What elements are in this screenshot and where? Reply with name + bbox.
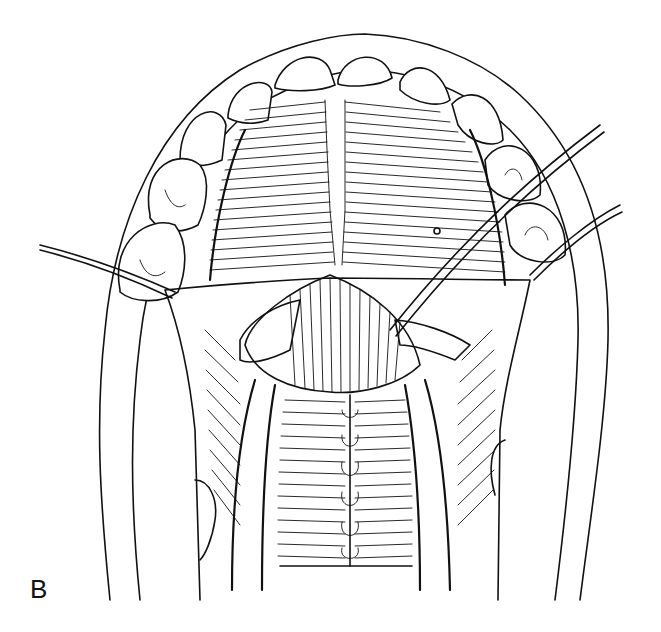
medical-illustration-figure: B <box>0 0 661 632</box>
right-tonsil <box>491 440 505 495</box>
surgical-line-drawing <box>0 0 661 632</box>
outer-lip-outline <box>100 34 609 600</box>
pharyngeal-columns <box>232 380 450 590</box>
panel-label: B <box>30 574 47 605</box>
soft-palate <box>240 275 470 393</box>
midline-suture <box>342 395 359 566</box>
left-palate-lines <box>210 102 334 270</box>
mucosal-flap <box>165 278 530 600</box>
pharyngeal-wall-hatching <box>278 400 412 566</box>
